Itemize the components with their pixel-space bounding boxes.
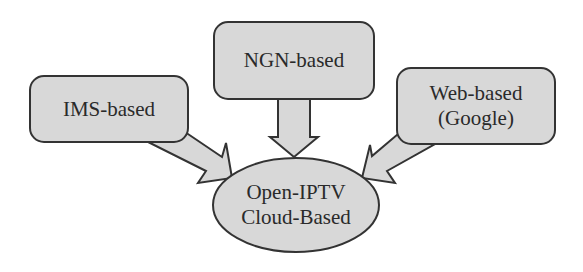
node-open-iptv-cloud: Open-IPTV Cloud-Based (213, 158, 379, 252)
node-label-line: IMS-based (63, 97, 155, 122)
node-ngn-based: NGN-based (214, 22, 374, 99)
node-ims-based: IMS-based (30, 76, 188, 142)
node-label-line: Web-based (430, 81, 523, 106)
node-label-line: (Google) (438, 106, 514, 131)
arrow-ngn-to-cloud (270, 99, 318, 157)
node-label-line: NGN-based (244, 48, 344, 73)
node-label-line: Open-IPTV (246, 180, 345, 205)
node-label-line: Cloud-Based (241, 205, 351, 230)
node-web-based: Web-based (Google) (397, 68, 555, 144)
diagram-canvas: IMS-based NGN-based Web-based (Google) O… (0, 0, 583, 272)
